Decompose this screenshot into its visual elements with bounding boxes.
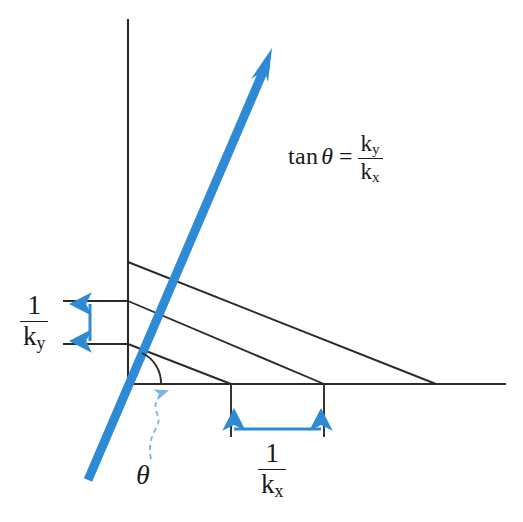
- equation-function: tan: [288, 143, 318, 169]
- numerator-base: k: [361, 131, 373, 156]
- fraction-denominator: kx: [358, 159, 383, 185]
- axes-group: [127, 20, 505, 386]
- theta-leader-line: [150, 391, 167, 459]
- fraction-numerator: ky: [358, 132, 383, 159]
- theta-leader-group: [150, 391, 167, 459]
- equation-angle: θ: [318, 143, 333, 169]
- measurement-arrows-group: [90, 304, 321, 429]
- fraction-ky-over-kx: kykx: [358, 132, 383, 185]
- fraction-one-over-ky: 1 ky: [20, 292, 48, 352]
- denominator-subscript: x: [372, 168, 380, 185]
- equation-equals: =: [333, 143, 358, 169]
- fraction-denominator: ky: [20, 322, 48, 352]
- label-one-over-kx: 1 kx: [258, 440, 286, 500]
- fraction-numerator: 1: [20, 292, 48, 322]
- fraction-denominator: kx: [258, 470, 286, 500]
- denominator-base: k: [23, 321, 37, 351]
- fraction-one-over-kx: 1 kx: [258, 440, 286, 500]
- figure-root: 1 ky 1 kx θ tanθ=kykx: [0, 0, 523, 522]
- label-theta: θ: [136, 459, 150, 491]
- denominator-subscript: x: [275, 480, 284, 500]
- fraction-numerator: 1: [258, 440, 286, 470]
- wave-vector-arrow-group: [88, 48, 272, 480]
- label-one-over-ky: 1 ky: [20, 292, 48, 352]
- label-tan-theta-equation: tanθ=kykx: [288, 132, 383, 185]
- denominator-base: k: [361, 159, 373, 184]
- ky-extension-lines-group: [63, 301, 129, 344]
- denominator-subscript: y: [37, 332, 46, 352]
- denominator-base: k: [261, 469, 275, 499]
- numerator-subscript: y: [372, 140, 380, 157]
- wave-vector-shaft: [88, 65, 266, 480]
